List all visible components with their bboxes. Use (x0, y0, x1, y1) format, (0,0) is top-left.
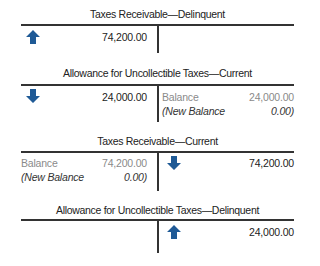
account-title: Allowance for Uncollectible Taxes—Curren… (21, 67, 294, 79)
credit-balance-amount: 24,000.00 (249, 91, 294, 103)
credit-new-balance-label: (New Balance (162, 105, 225, 117)
arrow-up-icon (167, 225, 181, 239)
arrow-down-icon (167, 156, 181, 170)
arrow-up-icon (26, 30, 40, 44)
credit-balance-label: Balance (162, 91, 199, 103)
arrow-down-icon (26, 89, 40, 103)
debit-new-balance-amount: 0.00) (124, 171, 147, 183)
t-account-vertical-rule (157, 151, 159, 191)
account-title: Taxes Receivable—Current (21, 135, 294, 147)
debit-amount: 24,000.00 (102, 91, 147, 103)
credit-new-balance-amount: 0.00) (271, 105, 294, 117)
account-title: Taxes Receivable—Delinquent (21, 8, 294, 20)
debit-balance-amount: 74,200.00 (102, 157, 147, 169)
debit-balance-label: Balance (21, 157, 58, 169)
t-account-vertical-rule (157, 24, 159, 53)
t-account-vertical-rule (157, 219, 159, 253)
debit-amount: 74,200.00 (102, 31, 147, 43)
account-title: Allowance for Uncollectible Taxes—Delinq… (21, 204, 294, 216)
debit-new-balance-label: (New Balance (21, 171, 84, 183)
credit-amount: 74,200.00 (249, 157, 294, 169)
t-account-vertical-rule (157, 84, 159, 122)
credit-amount: 24,000.00 (249, 226, 294, 238)
